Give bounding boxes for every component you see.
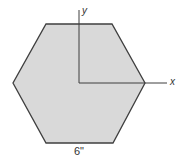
hexagon-diagram: [0, 0, 184, 164]
x-axis-label: x: [170, 77, 175, 87]
y-axis-label: y: [82, 6, 87, 16]
side-length-label: 6": [74, 146, 84, 157]
diagram-canvas: y x 6": [0, 0, 184, 164]
